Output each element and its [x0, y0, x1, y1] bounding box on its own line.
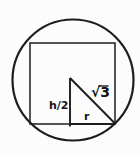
label-radius: r: [84, 110, 90, 123]
diagram-svg: h/2 √3 r: [0, 0, 140, 154]
label-half-height: h/2: [49, 99, 69, 112]
geometry-diagram: h/2 √3 r: [0, 0, 140, 154]
